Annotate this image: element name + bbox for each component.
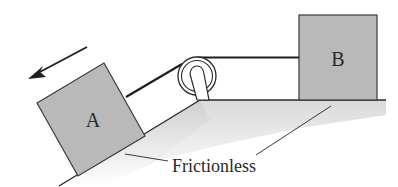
block-b-label: B <box>331 48 344 70</box>
motion-arrow-icon <box>28 47 87 79</box>
block-b: B <box>299 15 377 100</box>
frictionless-label: Frictionless <box>172 156 256 176</box>
pulley-incline-diagram: B A Frictionless <box>0 0 398 187</box>
block-a-label: A <box>86 109 101 131</box>
pulley <box>178 57 216 100</box>
